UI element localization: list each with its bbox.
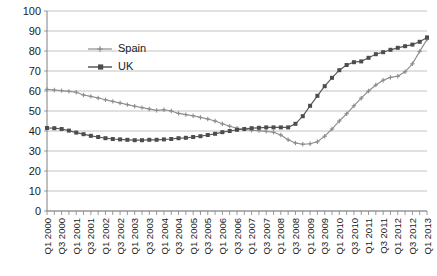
data-point-uk [45, 126, 49, 130]
data-point-uk [286, 125, 290, 129]
data-point-uk [228, 129, 232, 133]
data-point-uk [52, 126, 56, 130]
data-point-uk [345, 63, 349, 67]
y-tick-label: 20 [29, 165, 41, 177]
y-tick-label: 0 [35, 205, 41, 217]
x-tick-label: Q1 2005 [188, 218, 199, 254]
data-point-uk [293, 122, 297, 126]
data-point-uk [147, 138, 151, 142]
x-tick-label: Q3 2011 [378, 218, 389, 254]
y-tick-label: 30 [29, 145, 41, 157]
series-line-uk [47, 37, 427, 140]
x-tick-label: Q1 2002 [100, 218, 111, 254]
x-tick-label: Q1 2006 [217, 218, 228, 254]
data-point-uk [220, 130, 224, 134]
data-point-uk [301, 114, 305, 118]
x-tick-label: Q3 2010 [349, 218, 360, 254]
x-tick-label: Q1 2007 [246, 218, 257, 254]
data-point-uk [425, 35, 429, 39]
y-tick-label: 40 [29, 125, 41, 137]
data-point-uk [125, 138, 129, 142]
x-tick-label: Q1 2008 [275, 218, 286, 254]
x-tick-label: Q3 2008 [290, 218, 301, 254]
x-tick-label: Q1 2010 [334, 218, 345, 254]
data-point-uk [198, 134, 202, 138]
x-tick-label: Q3 2012 [407, 218, 418, 254]
x-tick-label: Q3 2007 [261, 218, 272, 254]
data-point-uk [82, 132, 86, 136]
data-point-uk [352, 60, 356, 64]
data-point-uk [367, 56, 371, 60]
data-point-uk [140, 138, 144, 142]
data-point-uk [330, 76, 334, 80]
x-tick-label: Q3 2006 [232, 218, 243, 254]
data-point-uk [272, 125, 276, 129]
data-point-uk [264, 125, 268, 129]
data-point-uk [250, 126, 254, 130]
data-point-uk [191, 135, 195, 139]
data-point-uk [74, 131, 78, 135]
data-point-uk [418, 40, 422, 44]
y-axis-group: 0102030405060708090100 [23, 5, 47, 217]
data-point-uk [323, 84, 327, 88]
legend: SpainUK [88, 42, 146, 72]
x-axis-group: Q1 2000Q3 2000Q1 2001Q3 2001Q1 2002Q3 20… [42, 211, 433, 254]
data-point-uk [374, 52, 378, 56]
gridlines-group [47, 11, 427, 211]
y-tick-label: 10 [29, 185, 41, 197]
data-point-uk [118, 137, 122, 141]
data-point-uk [177, 136, 181, 140]
data-point-uk [337, 68, 341, 72]
y-tick-label: 90 [29, 25, 41, 37]
x-tick-label: Q1 2011 [363, 218, 374, 254]
data-point-uk [111, 137, 115, 141]
x-tick-label: Q1 2009 [305, 218, 316, 254]
x-tick-label: Q1 2012 [392, 218, 403, 254]
x-tick-label: Q3 2004 [173, 218, 184, 254]
data-point-uk [213, 132, 217, 136]
x-tick-label: Q3 2009 [319, 218, 330, 254]
y-tick-label: 60 [29, 85, 41, 97]
data-point-uk [308, 104, 312, 108]
data-point-uk [279, 125, 283, 129]
x-tick-label: Q1 2013 [422, 218, 433, 254]
y-tick-label: 100 [23, 5, 41, 17]
x-tick-label: Q1 2004 [159, 218, 170, 254]
data-point-uk [410, 43, 414, 47]
data-point-uk [169, 137, 173, 141]
y-tick-label: 80 [29, 45, 41, 57]
data-point-uk [235, 128, 239, 132]
data-point-uk [396, 46, 400, 50]
data-point-uk [162, 137, 166, 141]
legend-marker-uk [98, 64, 103, 69]
x-tick-label: Q1 2001 [71, 218, 82, 254]
data-point-uk [242, 127, 246, 131]
data-point-uk [103, 136, 107, 140]
legend-label-spain: Spain [118, 42, 146, 54]
x-tick-label: Q1 2003 [129, 218, 140, 254]
data-point-uk [133, 138, 137, 142]
x-tick-label: Q3 2002 [115, 218, 126, 254]
data-point-uk [89, 134, 93, 138]
data-point-uk [403, 44, 407, 48]
data-point-uk [388, 48, 392, 52]
x-tick-label: Q3 2001 [85, 218, 96, 254]
x-tick-label: Q3 2005 [202, 218, 213, 254]
data-point-uk [359, 59, 363, 63]
line-chart: 0102030405060708090100 Q1 2000Q3 2000Q1 … [0, 0, 437, 276]
data-point-uk [67, 129, 71, 133]
data-point-uk [257, 126, 261, 130]
data-point-uk [184, 136, 188, 140]
data-point-uk [206, 133, 210, 137]
data-point-uk [381, 50, 385, 54]
x-tick-label: Q3 2000 [56, 218, 67, 254]
data-point-uk [155, 138, 159, 142]
data-point-uk [315, 94, 319, 98]
data-point-uk [96, 135, 100, 139]
x-tick-label: Q3 2003 [144, 218, 155, 254]
data-point-uk [60, 127, 64, 131]
chart-canvas: 0102030405060708090100 Q1 2000Q3 2000Q1 … [0, 0, 437, 276]
legend-label-uk: UK [118, 60, 134, 72]
y-tick-label: 50 [29, 105, 41, 117]
y-tick-label: 70 [29, 65, 41, 77]
